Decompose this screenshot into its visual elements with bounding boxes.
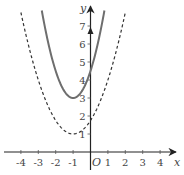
x-tick-label: -2 bbox=[51, 157, 61, 168]
axes bbox=[4, 6, 176, 170]
solid-parabola bbox=[42, 11, 105, 98]
x-axis-label: x bbox=[174, 156, 181, 169]
y-tick-label: 4 bbox=[79, 75, 85, 86]
x-tick-label: 3 bbox=[140, 157, 146, 168]
x-tick-label: -4 bbox=[16, 157, 26, 168]
dashed-parabola bbox=[21, 13, 125, 135]
chart-canvas: -4-3-2-112341234567 x y O bbox=[0, 0, 184, 175]
y-axis-label: y bbox=[79, 2, 87, 15]
y-tick-label: 1 bbox=[79, 129, 85, 140]
y-tick-label: 6 bbox=[79, 39, 85, 50]
x-tick-label: -1 bbox=[68, 157, 78, 168]
y-axis-inner-arrow bbox=[88, 27, 94, 34]
ticks: -4-3-2-112341234567 bbox=[16, 21, 163, 169]
x-tick-label: 2 bbox=[122, 157, 128, 168]
x-tick-label: -3 bbox=[33, 157, 43, 168]
x-tick-label: 4 bbox=[157, 157, 163, 168]
y-tick-label: 2 bbox=[79, 111, 85, 122]
curves bbox=[21, 11, 125, 134]
origin-label: O bbox=[92, 156, 101, 169]
y-tick-label: 7 bbox=[79, 21, 85, 32]
y-tick-label: 5 bbox=[79, 57, 85, 68]
x-tick-label: 1 bbox=[105, 157, 111, 168]
